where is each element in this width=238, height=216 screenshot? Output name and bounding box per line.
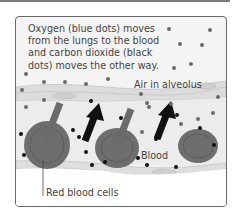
caption-line: from the lungs to the blood (28, 35, 178, 47)
caption-line: dots) moves the other way. (28, 60, 178, 72)
blood-label: Blood (141, 150, 168, 161)
caption: Oxygen (blue dots) moves from the lungs … (28, 23, 178, 72)
red-blood-cells-label: Red blood cells (46, 187, 118, 198)
diagram-frame: Oxygen (blue dots) moves from the lungs … (15, 16, 227, 207)
caption-line: and carbon dioxide (black (28, 47, 178, 59)
caption-line: Oxygen (blue dots) moves (28, 23, 178, 35)
air-in-alveolus-label: Air in alveolus (134, 79, 202, 90)
top-divider (0, 0, 230, 2)
